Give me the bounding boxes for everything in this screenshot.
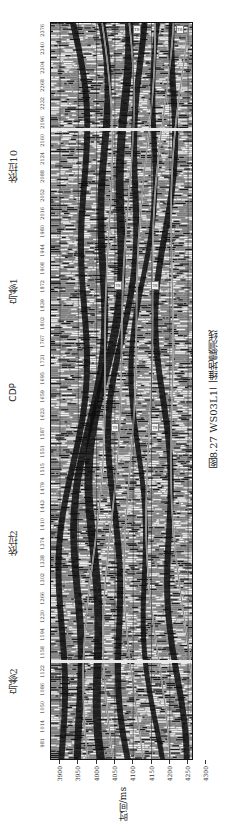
cdp-tick: 2124 bbox=[38, 152, 46, 165]
cdp-tick: 1194 bbox=[38, 628, 46, 641]
time-tickmark bbox=[169, 760, 170, 764]
horizon-tag: T8 bbox=[151, 281, 159, 290]
cdp-axis-label: CDP bbox=[8, 383, 18, 402]
cdp-tick: 2340 bbox=[38, 42, 46, 55]
well-label-yila2: 依拉2 bbox=[6, 530, 21, 556]
horizon-tag: T8 bbox=[114, 281, 122, 290]
horizon-tag: T8 bbox=[151, 423, 159, 432]
cdp-tick: 1410 bbox=[38, 518, 46, 531]
well-label-yila10: 依拉10 bbox=[6, 150, 21, 183]
cdp-tick: 1695 bbox=[38, 372, 46, 385]
cdp-tick: 1587 bbox=[38, 427, 46, 440]
cdp-tick: 1230 bbox=[38, 610, 46, 623]
time-tick: 4300 bbox=[202, 766, 209, 781]
cdp-tick: 2304 bbox=[38, 61, 46, 74]
time-tick: 4250 bbox=[184, 766, 191, 781]
cdp-tick: 2160 bbox=[38, 134, 46, 147]
cdp-tick: 1731 bbox=[38, 354, 46, 367]
seismic-section: T8-1 T8-2 T8 T8 T8 T8 bbox=[50, 22, 193, 760]
cdp-tick: 1623 bbox=[38, 408, 46, 421]
cdp-tick: 2232 bbox=[38, 97, 46, 110]
time-tickmark bbox=[77, 760, 78, 764]
time-tickmark bbox=[151, 760, 152, 764]
well-label-wucan2: 乌参2 bbox=[6, 668, 21, 694]
time-tick: 4200 bbox=[166, 766, 173, 781]
cdp-tick: 1158 bbox=[38, 646, 46, 659]
cdp-tick: 1872 bbox=[38, 280, 46, 293]
seismic-traces bbox=[51, 23, 193, 760]
cdp-tick: 2052 bbox=[38, 189, 46, 202]
time-tickmark bbox=[59, 760, 60, 764]
time-tickmark bbox=[132, 760, 133, 764]
cdp-tick: 1551 bbox=[38, 445, 46, 458]
time-tick: 4000 bbox=[93, 766, 100, 781]
cdp-tick: 1014 bbox=[38, 720, 46, 733]
cdp-tick: 1839 bbox=[38, 299, 46, 312]
cdp-tick: 1980 bbox=[38, 225, 46, 238]
horizon-tag: T8-2 bbox=[176, 25, 184, 34]
cdp-tick: 1302 bbox=[38, 573, 46, 586]
time-tickmark bbox=[114, 760, 115, 764]
time-tick: 4100 bbox=[129, 766, 136, 781]
cdp-tick: 1122 bbox=[38, 665, 46, 678]
time-tick: 3900 bbox=[56, 766, 63, 781]
cdp-tick: 2196 bbox=[38, 116, 46, 129]
time-axis-label: 时间/ms bbox=[116, 787, 129, 821]
cdp-tick: 1443 bbox=[38, 500, 46, 513]
cdp-tick: 1659 bbox=[38, 390, 46, 403]
cdp-tick: 1086 bbox=[38, 683, 46, 696]
cdp-tick: 1767 bbox=[38, 335, 46, 348]
figure-caption: 图8.27 WS03L1二维地震测线 bbox=[206, 330, 221, 468]
cdp-tick: 1908 bbox=[38, 262, 46, 275]
time-tickmark bbox=[205, 760, 206, 764]
cdp-tick: 2088 bbox=[38, 170, 46, 183]
well-line-yila10 bbox=[51, 128, 192, 131]
cdp-tick: 1374 bbox=[38, 537, 46, 550]
well-line-wucan2 bbox=[51, 660, 192, 663]
cdp-tick: 981 bbox=[38, 738, 46, 748]
time-tickmark bbox=[96, 760, 97, 764]
cdp-tick: 1944 bbox=[38, 244, 46, 257]
cdp-tick: 1050 bbox=[38, 701, 46, 714]
time-tick: 3950 bbox=[74, 766, 81, 781]
cdp-tick: 1266 bbox=[38, 592, 46, 605]
time-tickmark bbox=[187, 760, 188, 764]
cdp-tick: 1479 bbox=[38, 482, 46, 495]
time-tick: 4050 bbox=[111, 766, 118, 781]
cdp-tick: 1803 bbox=[38, 317, 46, 330]
cdp-tick: 1515 bbox=[38, 463, 46, 476]
cdp-tick: 1338 bbox=[38, 555, 46, 568]
cdp-tick: 2376 bbox=[38, 24, 46, 37]
horizon-tag: T8-1 bbox=[133, 25, 141, 34]
cdp-tick: 2016 bbox=[38, 207, 46, 220]
cdp-tick: 2268 bbox=[38, 79, 46, 92]
time-tick: 4150 bbox=[148, 766, 155, 781]
well-label-wucan1: 乌参1 bbox=[6, 278, 21, 304]
horizon-tag: T8 bbox=[111, 423, 119, 432]
